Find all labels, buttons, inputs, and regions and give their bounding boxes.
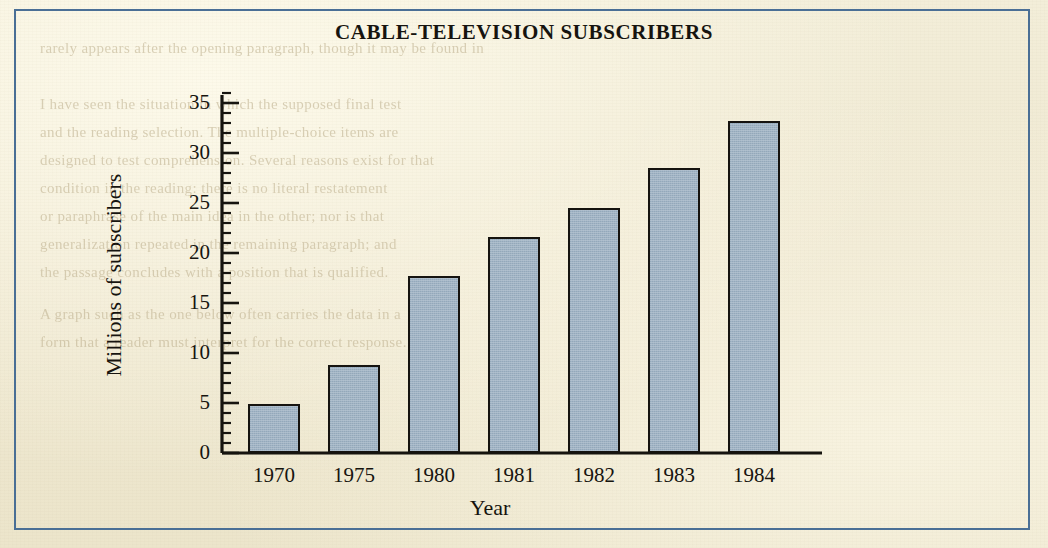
bar [728, 121, 780, 453]
y-tick-label: 15 [166, 292, 210, 313]
bar-texture [730, 123, 778, 451]
bar [408, 276, 460, 453]
bar-texture [650, 170, 698, 451]
bar-texture [490, 239, 538, 451]
bar [648, 168, 700, 453]
x-tick-label: 1983 [629, 463, 719, 488]
y-tick-label: 10 [166, 342, 210, 363]
y-tick-label: 0 [166, 442, 210, 463]
scanned-page: rarely appears after the opening paragra… [0, 0, 1048, 548]
x-tick-label: 1981 [469, 463, 559, 488]
bar [488, 237, 540, 453]
y-tick-label: 20 [166, 242, 210, 263]
bar-texture [570, 210, 618, 451]
bar [248, 404, 300, 453]
y-tick-label: 35 [166, 92, 210, 113]
x-tick-label: 1982 [549, 463, 639, 488]
bar [328, 365, 380, 453]
bar-chart: CABLE-TELEVISION SUBSCRIBERS Millions of… [0, 0, 1048, 548]
x-tick-label: 1980 [389, 463, 479, 488]
bar-texture [250, 406, 298, 451]
x-tick-label: 1975 [309, 463, 399, 488]
bar [568, 208, 620, 453]
y-tick-label: 25 [166, 192, 210, 213]
x-tick-label: 1984 [709, 463, 799, 488]
x-tick-label: 1970 [229, 463, 319, 488]
y-tick-label: 5 [166, 392, 210, 413]
y-tick-label: 30 [166, 142, 210, 163]
bar-texture [330, 367, 378, 451]
bar-texture [410, 278, 458, 451]
